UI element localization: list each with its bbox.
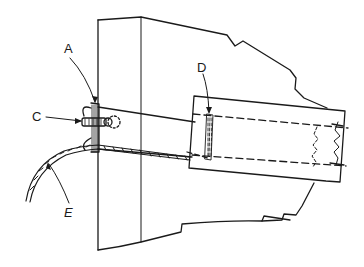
- diagram-canvas: A C D E: [0, 0, 364, 267]
- arrowheads: [46, 96, 212, 170]
- line-drawing: [0, 0, 364, 267]
- label-a: A: [64, 42, 73, 55]
- label-c: C: [32, 110, 41, 123]
- label-e: E: [64, 206, 73, 219]
- stub-post: [98, 107, 195, 157]
- label-d: D: [197, 61, 206, 74]
- lashing-band-d: [205, 114, 213, 160]
- leaders: [46, 58, 209, 203]
- rope-e: [26, 145, 190, 202]
- fastener-c: [82, 116, 120, 128]
